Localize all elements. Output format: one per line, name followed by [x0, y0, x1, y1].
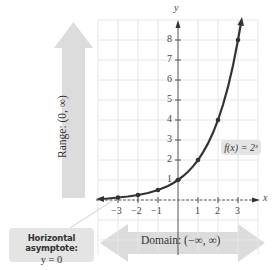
- y-tick-label: 3: [167, 133, 172, 144]
- asymptote-callout: Horizontal asymptote: y = 0: [9, 228, 94, 262]
- x-tick-label: 2: [215, 205, 220, 216]
- x-tick-label: −1: [151, 205, 162, 216]
- y-axis-label: y: [174, 2, 178, 13]
- y-tick-label: 6: [167, 73, 172, 84]
- x-tick-label: −2: [131, 205, 142, 216]
- x-axis-label: x: [263, 192, 267, 203]
- x-axis-arrow-icon: [252, 198, 260, 203]
- y-axis-arrow-icon: [176, 20, 181, 28]
- y-tick-label: 2: [167, 153, 172, 164]
- y-tick-label: 1: [167, 173, 172, 184]
- asymptote-equation: y = 0: [9, 254, 94, 265]
- y-tick-label: 5: [167, 93, 172, 104]
- asymptote-title: Horizontal asymptote:: [9, 233, 94, 253]
- function-label: f(x) = 2ˣ: [221, 140, 261, 155]
- asymptote-leader: [70, 201, 112, 228]
- curve-left-arrow-icon: [96, 196, 104, 202]
- x-tick-label: 1: [195, 205, 200, 216]
- domain-label: Domain: (−∞, ∞): [141, 234, 220, 246]
- x-tick-label: −3: [111, 205, 122, 216]
- y-tick-label: 4: [167, 113, 172, 124]
- x-tick-label: 3: [235, 205, 240, 216]
- y-tick-label: 8: [167, 33, 172, 44]
- y-tick-label: 7: [167, 53, 172, 64]
- range-label: Range: (0, ∞): [56, 95, 68, 158]
